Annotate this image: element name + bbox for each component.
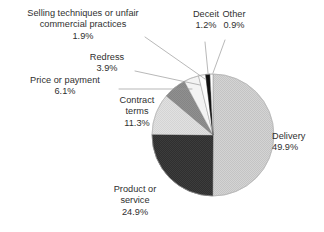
slice-label-selling-techniques-pct: 1.9% — [0, 31, 166, 42]
slice-label-redress-pct: 3.9% — [62, 63, 152, 74]
pie-chart: Selling techniques or unfair commercial … — [0, 0, 324, 232]
slice-label-other-pct: 0.9% — [210, 20, 258, 31]
slice-label-product-or-service-pct: 24.9% — [96, 207, 174, 218]
slice-label-contract-terms-pct: 11.3% — [104, 118, 170, 129]
slice-label-product-or-service-line2: service — [96, 195, 174, 206]
pie-slice-delivery — [213, 74, 274, 196]
slice-label-selling-techniques: Selling techniques or unfair commercial … — [0, 8, 166, 42]
slice-label-selling-techniques-line1: Selling techniques or unfair — [0, 8, 166, 19]
slice-label-delivery: Delivery 49.9% — [272, 131, 324, 154]
slice-label-contract-terms-line1: Contract — [104, 95, 170, 106]
slice-label-other: Other 0.9% — [210, 9, 258, 32]
slice-label-contract-terms-line2: terms — [104, 106, 170, 117]
slice-label-delivery-pct: 49.9% — [272, 142, 324, 153]
slice-label-redress-name: Redress — [62, 52, 152, 63]
slice-label-product-or-service: Product or service 24.9% — [96, 184, 174, 218]
slice-label-price-or-payment-name: Price or payment — [10, 75, 120, 86]
slice-label-product-or-service-line1: Product or — [96, 184, 174, 195]
leader-line-selling-techniques — [145, 37, 205, 79]
slice-label-redress: Redress 3.9% — [62, 52, 152, 75]
slice-label-other-name: Other — [210, 9, 258, 20]
leader-line-other — [213, 40, 225, 73]
slice-label-selling-techniques-line2: commercial practices — [0, 19, 166, 30]
slice-label-contract-terms: Contract terms 11.3% — [104, 95, 170, 129]
slice-label-delivery-name: Delivery — [272, 131, 324, 142]
leader-line-deceit — [205, 42, 208, 73]
